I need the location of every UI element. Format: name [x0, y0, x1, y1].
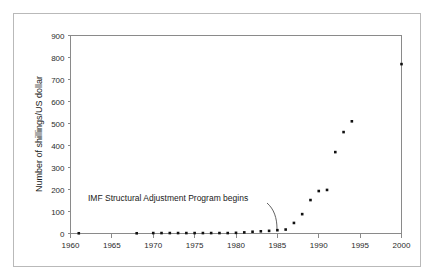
- x-tick-label: 1970: [144, 241, 162, 250]
- annotation-imf-label: IMF Structural Adjustment Program begins: [88, 193, 248, 203]
- data-point: [235, 232, 238, 235]
- data-point: [309, 199, 312, 202]
- y-tick-label: 500: [51, 120, 65, 129]
- data-point: [169, 232, 172, 235]
- data-point-group: [77, 63, 402, 235]
- y-tick-label: 600: [51, 98, 65, 107]
- data-point: [77, 232, 80, 235]
- data-point: [160, 232, 163, 235]
- x-axis-ticks: 196019651970197519801985199019952000: [62, 234, 411, 250]
- data-point: [260, 230, 263, 233]
- data-point: [293, 222, 296, 225]
- y-axis-ticks: 0100200300400500600700800900: [51, 32, 70, 239]
- y-tick-label: 700: [51, 76, 65, 85]
- data-point: [135, 232, 138, 235]
- y-axis-title: Number of shillings/US dollar: [34, 76, 44, 192]
- data-point: [301, 213, 304, 216]
- x-tick-label: 1975: [186, 241, 204, 250]
- data-point: [152, 232, 155, 235]
- data-point: [342, 131, 345, 134]
- y-tick-label: 400: [51, 142, 65, 151]
- data-point: [251, 230, 254, 233]
- y-tick-label: 900: [51, 32, 65, 41]
- data-point: [317, 190, 320, 193]
- x-tick-label: 2000: [393, 241, 411, 250]
- data-point: [226, 232, 229, 235]
- y-tick-label: 100: [51, 208, 65, 217]
- scatter-plot: 0100200300400500600700800900 19601965197…: [0, 0, 434, 280]
- data-point: [210, 232, 213, 235]
- data-point: [326, 189, 329, 192]
- data-point: [334, 151, 337, 154]
- x-tick-label: 1990: [310, 241, 328, 250]
- data-point: [177, 232, 180, 235]
- data-point: [185, 232, 188, 235]
- y-tick-label: 0: [60, 230, 65, 239]
- data-point: [284, 228, 287, 231]
- chart-figure: 0100200300400500600700800900 19601965197…: [0, 0, 434, 280]
- x-tick-label: 1960: [62, 241, 80, 250]
- x-tick-label: 1995: [351, 241, 369, 250]
- data-point: [268, 230, 271, 233]
- y-tick-label: 800: [51, 54, 65, 63]
- x-tick-label: 1985: [268, 241, 286, 250]
- y-tick-label: 300: [51, 164, 65, 173]
- data-point: [202, 232, 205, 235]
- annotation-leader-line: [267, 203, 277, 229]
- x-tick-label: 1965: [103, 241, 121, 250]
- data-point: [351, 120, 354, 123]
- data-point: [193, 232, 196, 235]
- x-tick-label: 1980: [227, 241, 245, 250]
- data-point: [218, 232, 221, 235]
- data-point: [400, 63, 403, 66]
- data-point: [276, 229, 279, 232]
- data-point: [243, 231, 246, 234]
- plot-axes: [71, 36, 402, 234]
- y-tick-label: 200: [51, 186, 65, 195]
